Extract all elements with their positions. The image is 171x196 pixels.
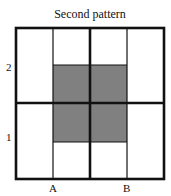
row-label-2: 2: [6, 62, 12, 73]
column-label-b: B: [123, 183, 130, 194]
pattern-grid: [0, 0, 171, 196]
column-label-a: A: [49, 183, 57, 194]
row-label-1: 1: [6, 132, 12, 143]
